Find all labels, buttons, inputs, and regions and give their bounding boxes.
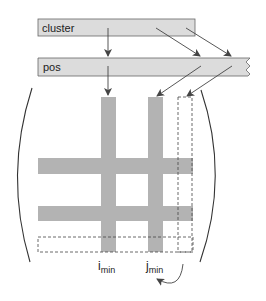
j-min-label: jmin <box>145 259 163 275</box>
right-paren <box>200 90 215 262</box>
cluster-array: cluster <box>38 19 195 36</box>
column-bar-i <box>101 97 116 252</box>
dashed-column <box>178 97 192 252</box>
pos-array: pos <box>38 58 250 76</box>
cluster-label: cluster <box>42 22 75 34</box>
column-bar-j <box>148 97 163 252</box>
matrix-bars <box>38 97 193 252</box>
column-labels: imin jmin <box>98 259 163 275</box>
pos-label: pos <box>43 61 61 73</box>
diagram-canvas: cluster pos imin jmin <box>0 0 266 301</box>
left-paren <box>17 88 32 262</box>
i-min-label: imin <box>98 259 115 275</box>
